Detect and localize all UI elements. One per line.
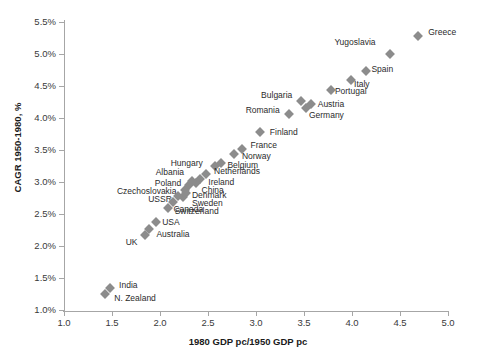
data-point-label: Netherlands bbox=[214, 167, 260, 176]
data-point-label: USA bbox=[162, 218, 179, 227]
data-point-label: Austria bbox=[318, 100, 344, 109]
data-point-label: N. Zealand bbox=[114, 294, 156, 303]
y-tick-label: 3.0% bbox=[0, 177, 56, 187]
x-axis-title: 1980 GDP pc/1950 GDP pc bbox=[0, 336, 496, 347]
y-tick-label: 2.0% bbox=[0, 241, 56, 251]
y-axis-title: CAGR 1950-1980, % bbox=[12, 73, 23, 223]
x-tick bbox=[112, 311, 113, 316]
data-point-label: Portugal bbox=[335, 87, 367, 96]
data-point-label: Yugoslavia bbox=[334, 38, 375, 47]
data-point-label: Bulgaria bbox=[261, 91, 292, 100]
data-point-label: Spain bbox=[371, 65, 393, 74]
x-tick bbox=[64, 311, 65, 316]
x-tick bbox=[448, 311, 449, 316]
y-tick-label: 3.5% bbox=[0, 145, 56, 155]
x-tick-label: 3.0 bbox=[236, 318, 276, 328]
x-tick-label: 2.0 bbox=[140, 318, 180, 328]
y-tick-label: 1.0% bbox=[0, 305, 56, 315]
y-tick-label: 4.5% bbox=[0, 81, 56, 91]
data-point-label: Greece bbox=[428, 28, 456, 37]
x-tick bbox=[304, 311, 305, 316]
x-tick-label: 1.5 bbox=[92, 318, 132, 328]
data-point-label: Australia bbox=[156, 230, 189, 239]
x-tick bbox=[400, 311, 401, 316]
x-tick bbox=[160, 311, 161, 316]
x-tick-label: 3.5 bbox=[284, 318, 324, 328]
data-point-label: India bbox=[119, 281, 137, 290]
data-point-label: Finland bbox=[270, 128, 298, 137]
x-tick-label: 2.5 bbox=[188, 318, 228, 328]
x-tick-label: 4.5 bbox=[380, 318, 420, 328]
data-point-label: France bbox=[251, 141, 277, 150]
y-tick-label: 1.5% bbox=[0, 273, 56, 283]
data-point-label: Germany bbox=[309, 111, 344, 120]
data-point-label: Switzerland bbox=[175, 207, 219, 216]
y-tick-label: 2.5% bbox=[0, 209, 56, 219]
data-point-label: UK bbox=[126, 238, 138, 247]
scatter-chart: 1.0%1.5%2.0%2.5%3.0%3.5%4.0%4.5%5.0%5.5%… bbox=[0, 0, 496, 360]
y-tick-label: 4.0% bbox=[0, 113, 56, 123]
x-tick-label: 4.0 bbox=[332, 318, 372, 328]
x-tick bbox=[352, 311, 353, 316]
x-tick-label: 1.0 bbox=[44, 318, 84, 328]
x-tick-label: 5.0 bbox=[428, 318, 468, 328]
data-point-label: Romania bbox=[246, 106, 280, 115]
x-tick bbox=[256, 311, 257, 316]
data-point-label: Albania bbox=[156, 168, 184, 177]
y-tick-label: 5.5% bbox=[0, 17, 56, 27]
y-tick-label: 5.0% bbox=[0, 49, 56, 59]
x-tick bbox=[208, 311, 209, 316]
